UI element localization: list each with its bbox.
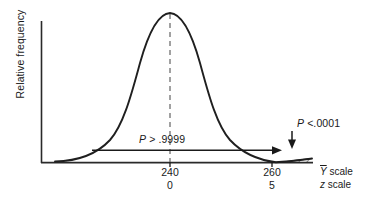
y-axis-label: Relative frequency	[14, 4, 26, 104]
tick-label-5: 5	[252, 179, 292, 191]
z-scale-text: scale	[325, 179, 351, 190]
y-scale-caption: Y scale	[320, 166, 353, 177]
left-region-arrow	[92, 146, 282, 154]
tail-region-probability-label: P <.0001	[297, 117, 340, 129]
tick-label-240: 240	[150, 166, 190, 178]
left-region-probability-label: P > .9999	[139, 133, 185, 145]
y-scale-text: scale	[327, 166, 353, 177]
tick-label-0: 0	[150, 179, 190, 191]
p-value-left: > .9999	[146, 133, 185, 145]
p-value-tail: <.0001	[304, 117, 340, 129]
normal-distribution-figure: Relative frequency P > .9999 P <.0001 24…	[0, 0, 377, 200]
tail-pointer-arrow	[288, 131, 296, 149]
y-bar-symbol: Y	[320, 166, 327, 177]
tick-label-260: 260	[252, 166, 292, 178]
z-scale-caption: z scale	[320, 179, 351, 190]
